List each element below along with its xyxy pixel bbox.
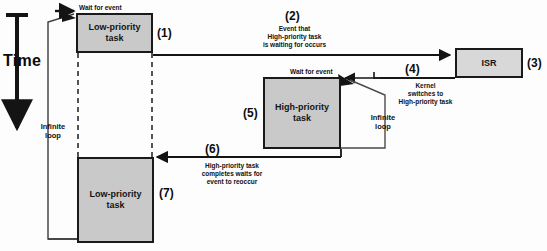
step-7-number: (7)	[159, 186, 174, 200]
step-2-line2: High-priority task	[268, 33, 322, 40]
isr-box[interactable]: ISR	[455, 48, 523, 78]
step-4-description: Kernel switches to High-priority task	[378, 82, 473, 105]
low-priority-task-top-label: Low-priority task	[89, 22, 141, 45]
high-priority-line2: task	[293, 113, 311, 123]
step-3-number: (3)	[527, 56, 542, 70]
low-priority-top-line2: task	[105, 33, 123, 43]
step-4-line3: High-priority task	[399, 98, 453, 105]
time-axis-label: Time	[3, 52, 41, 70]
step-2-line1: Event that	[279, 25, 310, 32]
step-4-line1: Kernel	[415, 82, 435, 89]
high-priority-line1: High-priority	[275, 102, 329, 112]
step-6-line1: High-priority task	[205, 162, 259, 169]
step-6-number: (6)	[205, 142, 220, 156]
infinite-loop-left-line1: Infinite	[41, 122, 66, 131]
wait-for-event-high-label: Wait for event	[290, 68, 333, 76]
step6-arrow	[157, 149, 341, 157]
isr-label: ISR	[481, 58, 496, 68]
step-2-description: Event that High-priority task is waiting…	[237, 25, 352, 48]
infinite-loop-left-line2: loop	[45, 131, 61, 140]
step-2-line3: is waiting for occurs	[263, 41, 326, 48]
high-priority-task-label: High-priority task	[275, 102, 329, 125]
step4-arrow	[345, 72, 455, 78]
dashed-guides	[78, 53, 152, 157]
step-2-number: (2)	[285, 9, 300, 23]
infinite-loop-right-line2: loop	[375, 122, 391, 131]
step-6-description: High-priority task completes waits for e…	[177, 162, 287, 185]
low-priority-top-line1: Low-priority	[89, 22, 141, 32]
step-4-number: (4)	[405, 62, 420, 76]
infinite-loop-left-label: Infinite loop	[31, 122, 75, 140]
step-1-number: (1)	[157, 26, 172, 40]
infinite-loop-left-arrowhead	[62, 12, 76, 22]
time-axis	[6, 14, 28, 128]
wait-for-event-top-label: Wait for event	[79, 4, 122, 12]
low-priority-bottom-line2: task	[106, 200, 124, 210]
diagram-canvas: Low-priority task ISR High-priority task…	[0, 0, 547, 251]
step-6-line2: completes waits for	[202, 170, 263, 177]
infinite-loop-right-line1: Infinite	[371, 113, 396, 122]
step-5-number: (5)	[243, 106, 258, 120]
infinite-loop-right-label: Infinite loop	[358, 113, 408, 131]
step-4-line2: switches to	[408, 90, 443, 97]
step-6-line3: event to reoccur	[207, 178, 258, 185]
low-priority-bottom-line1: Low-priority	[90, 189, 142, 199]
low-priority-task-bottom-box[interactable]: Low-priority task	[77, 157, 154, 243]
low-priority-task-top-box[interactable]: Low-priority task	[76, 13, 153, 53]
high-priority-task-box[interactable]: High-priority task	[263, 77, 341, 149]
low-priority-task-bottom-label: Low-priority task	[90, 189, 142, 212]
